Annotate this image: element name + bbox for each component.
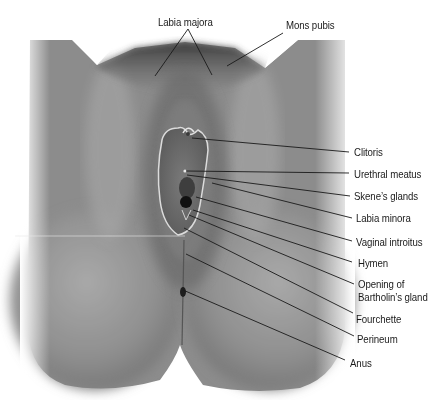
label-anus: Anus [350,357,372,369]
label-clitoris: Clitoris [354,146,383,158]
label-mons-pubis: Mons pubis [286,19,334,31]
label-vaginal-introitus: Vaginal introitus [356,236,422,248]
label-labia-minora: Labia minora [356,212,411,224]
label-perineum: Perineum [357,333,398,345]
label-skenes-glands: Skene’s glands [354,190,418,202]
anatomy-diagram: Labia majora Mons pubis Clitoris Urethra… [0,0,445,400]
label-bartholin-line1: Opening of [358,278,404,290]
label-fourchette: Fourchette [356,313,401,325]
label-bartholin-line2: Bartholin’s gland [358,291,428,303]
label-labia-majora: Labia majora [158,16,213,28]
label-hymen: Hymen [358,257,388,269]
label-urethral-meatus: Urethral meatus [354,168,421,180]
